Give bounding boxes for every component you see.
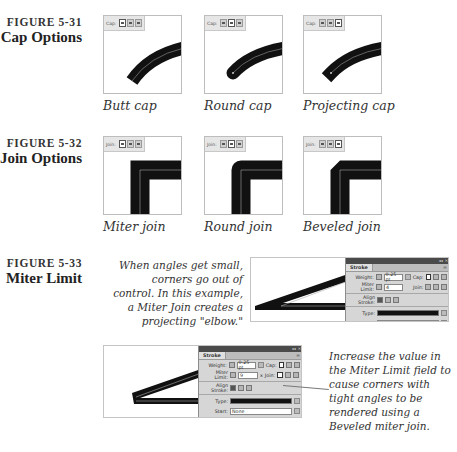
beveled-join-example: Join: [303, 136, 382, 215]
weight-dropdown[interactable] [258, 362, 264, 368]
align-outside-button[interactable] [393, 297, 399, 303]
projecting-cap-button[interactable] [135, 19, 142, 27]
stroke-type-select[interactable] [377, 310, 439, 316]
join-toolbar: Join: [205, 137, 246, 152]
weight-stepper[interactable] [376, 274, 382, 280]
panel-menu-icon[interactable]: ≡ [443, 264, 449, 271]
figure-title: Join Options [0, 150, 82, 167]
collapse-icon[interactable]: ◂◂ [439, 259, 443, 263]
close-icon[interactable]: ✕ [298, 347, 301, 351]
panel-menu-icon[interactable]: ≡ [296, 352, 302, 359]
miter-join-button[interactable] [319, 140, 326, 148]
cap-toolbar: Cap: [205, 16, 246, 31]
round-join-button[interactable] [285, 372, 291, 378]
align-outside-button[interactable] [246, 385, 252, 391]
projecting-cap-button[interactable] [294, 362, 300, 368]
miter-join-button[interactable] [220, 140, 227, 148]
miter-limit-screenshot-after: ◂◂✕ Stroke ≡ Weight: 0.25 pt Cap: Miter … [103, 345, 302, 418]
weight-field[interactable]: 0.25 pt [237, 362, 256, 369]
bevel-join-button[interactable] [236, 140, 243, 148]
stroke-panel: ◂◂✕ Stroke ≡ Weight: 0.25 pt Cap: Miter … [345, 257, 449, 322]
align-center-button[interactable] [230, 385, 236, 391]
figure-number: FIGURE 5-31 [1, 16, 82, 28]
round-cap-button[interactable] [433, 274, 439, 280]
miter-explanation-text: When angles get small, corners go out of… [110, 258, 243, 328]
stroke-tab[interactable]: Stroke [346, 264, 373, 271]
cap-toolbar: Cap: [304, 16, 345, 31]
projecting-cap-example: Cap: [303, 15, 382, 94]
miter-join-button[interactable] [425, 284, 431, 290]
join-toolbar: Join: [104, 137, 145, 152]
align-center-button[interactable] [377, 297, 383, 303]
butt-cap-button[interactable] [426, 274, 432, 280]
weight-field[interactable]: 0.25 pt [384, 274, 403, 281]
butt-cap-button[interactable] [119, 19, 126, 27]
round-cap-button[interactable] [286, 362, 292, 368]
stroke-type-select[interactable] [230, 398, 292, 404]
figure-title: Miter Limit [6, 270, 82, 287]
start-select[interactable]: None [230, 408, 292, 415]
type-dropdown[interactable] [294, 398, 300, 404]
round-cap-button[interactable] [127, 19, 134, 27]
round-cap-button[interactable] [327, 19, 334, 27]
start-dropdown[interactable] [294, 408, 300, 414]
round-cap-example: Cap: [204, 15, 283, 94]
figure-5-31-label: FIGURE 5-31 Cap Options [1, 16, 82, 46]
caption: Round cap [204, 98, 271, 113]
miter-join-example: Join: [103, 136, 182, 215]
miter-join-button[interactable] [119, 140, 126, 148]
caption: Round join [204, 219, 272, 234]
miter-limit-instruction-text: Increase the value in the Miter Limit fi… [329, 349, 455, 433]
miter-limit-stepper[interactable] [376, 284, 382, 290]
projecting-cap-button[interactable] [441, 274, 447, 280]
stroke-tab[interactable]: Stroke [199, 352, 226, 359]
cap-label: Cap: [106, 21, 116, 26]
miter-join-button[interactable] [277, 372, 283, 378]
start-select[interactable]: None [377, 320, 439, 323]
round-join-button[interactable] [327, 140, 334, 148]
caption: Beveled join [303, 219, 381, 234]
close-icon[interactable]: ✕ [445, 259, 448, 263]
projecting-cap-button[interactable] [335, 19, 342, 27]
join-label: Join: [306, 142, 316, 147]
miter-limit-field[interactable]: 4 [384, 284, 403, 291]
cap-label: Cap: [207, 21, 217, 26]
join-toolbar: Join: [304, 137, 345, 152]
butt-cap-button[interactable] [319, 19, 326, 27]
butt-cap-button[interactable] [279, 362, 285, 368]
cap-toolbar: Cap: [104, 16, 145, 31]
figure-5-33-label: FIGURE 5-33 Miter Limit [6, 257, 82, 287]
weight-stepper[interactable] [229, 362, 235, 368]
bevel-join-button[interactable] [335, 140, 342, 148]
caption: Projecting cap [303, 98, 395, 113]
figure-title: Cap Options [1, 29, 82, 46]
figure-5-32-label: FIGURE 5-32 Join Options [0, 137, 82, 167]
weight-dropdown[interactable] [405, 274, 411, 280]
miter-limit-field[interactable]: 9 [238, 372, 258, 379]
join-label: Join: [207, 142, 217, 147]
butt-cap-example: Cap: [103, 15, 182, 94]
round-join-example: Join: [204, 136, 283, 215]
caption: Butt cap [103, 98, 157, 113]
type-dropdown[interactable] [441, 310, 447, 316]
align-inside-button[interactable] [385, 297, 391, 303]
miter-limit-screenshot-before: ◂◂✕ Stroke ≡ Weight: 0.25 pt Cap: Miter … [250, 257, 449, 322]
caption: Miter join [103, 219, 166, 234]
round-join-button[interactable] [228, 140, 235, 148]
figure-number: FIGURE 5-33 [6, 257, 82, 269]
bevel-join-button[interactable] [441, 284, 447, 290]
butt-cap-button[interactable] [220, 19, 227, 27]
projecting-cap-button[interactable] [236, 19, 243, 27]
round-join-button[interactable] [127, 140, 134, 148]
bevel-join-button[interactable] [293, 372, 299, 378]
miter-limit-stepper[interactable] [230, 372, 236, 378]
figure-number: FIGURE 5-32 [0, 137, 82, 149]
round-cap-button[interactable] [228, 19, 235, 27]
start-dropdown[interactable] [441, 320, 447, 322]
cap-label: Cap: [306, 21, 316, 26]
align-inside-button[interactable] [238, 385, 244, 391]
stroke-panel: ◂◂✕ Stroke ≡ Weight: 0.25 pt Cap: Miter … [198, 345, 302, 418]
collapse-icon[interactable]: ◂◂ [292, 347, 296, 351]
round-join-button[interactable] [433, 284, 439, 290]
bevel-join-button[interactable] [135, 140, 142, 148]
